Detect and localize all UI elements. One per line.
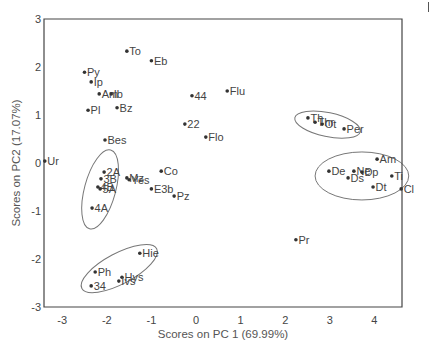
data-point: 34 <box>89 280 106 292</box>
point-label: Pz <box>177 190 190 202</box>
point-marker <box>127 178 131 182</box>
point-marker <box>313 120 317 124</box>
data-point: 22 <box>183 118 200 130</box>
point-label: Bes <box>108 134 127 146</box>
point-label: Flu <box>230 85 245 97</box>
data-point: To <box>125 45 141 57</box>
point-marker <box>390 174 394 178</box>
point-label: Eb <box>154 55 167 67</box>
point-marker <box>306 116 310 120</box>
point-label: Pl <box>91 104 101 116</box>
data-point: 4A <box>90 202 108 214</box>
point-marker <box>225 89 229 93</box>
data-point: Hie <box>138 247 159 259</box>
point-marker <box>399 187 403 191</box>
point-label: Per <box>347 123 364 135</box>
point-label: Hie <box>142 247 159 259</box>
data-point: Flu <box>225 85 245 97</box>
x-tick-label: -3 <box>57 314 67 326</box>
y-tick-label: -3 <box>31 301 41 313</box>
point-marker <box>89 284 93 288</box>
point-marker <box>150 59 154 63</box>
data-point: Am <box>375 153 396 165</box>
point-label: Ivs <box>121 275 136 287</box>
point-label: 5A <box>103 183 117 195</box>
point-marker <box>172 194 176 198</box>
point-label: Bz <box>120 102 133 114</box>
point-marker <box>97 92 101 96</box>
point-label: Ot <box>325 118 337 130</box>
point-label: Ib <box>114 88 123 100</box>
point-label: Ds <box>351 172 365 184</box>
point-marker <box>103 138 107 142</box>
point-label: Pr <box>298 234 309 246</box>
point-marker <box>190 94 194 98</box>
point-marker <box>86 108 90 112</box>
x-tick-label: 4 <box>371 314 377 326</box>
point-marker <box>159 169 163 173</box>
data-point: Per <box>342 123 364 135</box>
point-marker <box>375 157 379 161</box>
point-marker <box>346 176 350 180</box>
point-label: To <box>129 45 141 57</box>
point-label: Ur <box>47 155 59 167</box>
data-point: Flo <box>204 131 224 143</box>
point-label: De <box>331 165 345 177</box>
cluster-ellipse <box>75 235 164 302</box>
pca-scores-plot: -3-2-101234 -3-2-10123 UrToEbPyIpAmIbPlB… <box>0 0 432 348</box>
y-tick-label: -1 <box>31 205 41 217</box>
data-point: Pz <box>172 190 189 202</box>
data-point: Ph <box>93 266 111 278</box>
point-marker <box>183 122 187 126</box>
y-tick-label: 3 <box>35 13 41 25</box>
point-label: 4A <box>95 202 109 214</box>
point-label: E3b <box>154 183 174 195</box>
x-tick-label: 3 <box>327 314 333 326</box>
data-point: Bz <box>115 102 132 114</box>
data-point: Ti <box>390 170 403 182</box>
point-label: Co <box>164 165 178 177</box>
point-marker <box>89 80 93 84</box>
data-point: Yes <box>127 174 150 186</box>
point-marker <box>150 187 154 191</box>
x-tick-label: 0 <box>193 314 199 326</box>
point-label: 22 <box>187 118 199 130</box>
point-marker <box>125 49 129 53</box>
x-tick-label: -1 <box>147 314 157 326</box>
data-point: De <box>327 165 345 177</box>
data-point: E3b <box>150 183 174 195</box>
data-point: Eb <box>150 55 168 67</box>
data-point: Bes <box>103 134 127 146</box>
x-axis-ticks: -3-2-101234 <box>57 314 377 326</box>
point-label: 44 <box>194 90 206 102</box>
point-marker <box>138 251 142 255</box>
y-tick-label: -2 <box>31 253 41 265</box>
point-marker <box>98 187 102 191</box>
point-marker <box>327 169 331 173</box>
y-tick-label: 1 <box>35 109 41 121</box>
point-marker <box>109 92 113 96</box>
point-label: Dp <box>364 166 378 178</box>
data-point: 44 <box>190 90 207 102</box>
point-label: Yes <box>132 174 150 186</box>
point-label: Ph <box>98 266 111 278</box>
point-marker <box>342 127 346 131</box>
point-label: Dt <box>376 181 387 193</box>
point-label: Cl <box>404 183 414 195</box>
point-label: 34 <box>94 280 106 292</box>
point-marker <box>320 122 324 126</box>
y-axis-ticks: -3-2-10123 <box>31 13 41 313</box>
y-tick-label: 0 <box>35 157 41 169</box>
point-label: Ti <box>394 170 403 182</box>
y-axis-title: Scores on PC2 (17.07%) <box>10 99 22 226</box>
data-point: Ds <box>346 172 364 184</box>
point-marker <box>90 206 94 210</box>
data-point: Co <box>159 165 177 177</box>
point-marker <box>43 159 47 163</box>
point-marker <box>83 70 87 74</box>
x-tick-label: 2 <box>282 314 288 326</box>
point-label: Am <box>380 153 397 165</box>
point-marker <box>93 270 97 274</box>
point-label: Ip <box>94 76 103 88</box>
x-axis-title: Scores on PC 1 (69.99%) <box>158 328 289 340</box>
